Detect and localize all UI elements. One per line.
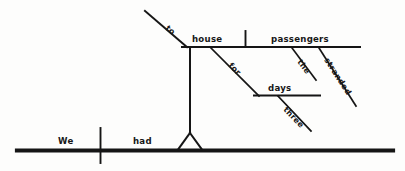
word-three: three	[282, 105, 306, 130]
tripod-right-leg	[190, 133, 202, 150]
tripod-left-leg	[178, 133, 190, 150]
word-for: for	[227, 61, 243, 77]
word-to: to	[164, 24, 178, 37]
word-the: the	[295, 58, 312, 76]
word-stranded: stranded	[322, 56, 353, 97]
word-passengers: passengers	[271, 34, 329, 44]
sentence-diagram: We had to house passengers the stranded …	[0, 0, 405, 171]
word-had: had	[133, 136, 152, 146]
word-we: We	[58, 136, 74, 146]
word-house: house	[192, 34, 222, 44]
word-days: days	[268, 83, 291, 93]
diagram-canvas: We had to house passengers the stranded …	[0, 0, 405, 171]
